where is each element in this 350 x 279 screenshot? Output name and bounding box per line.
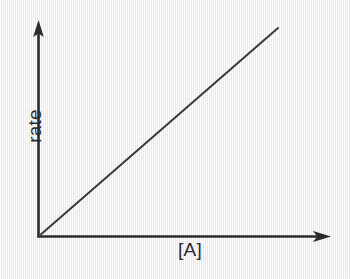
x-axis-label: [A] <box>140 240 240 259</box>
data-series-line <box>39 28 279 237</box>
chart-figure: rate [A] <box>0 0 350 279</box>
y-axis-label: rate <box>8 100 60 152</box>
